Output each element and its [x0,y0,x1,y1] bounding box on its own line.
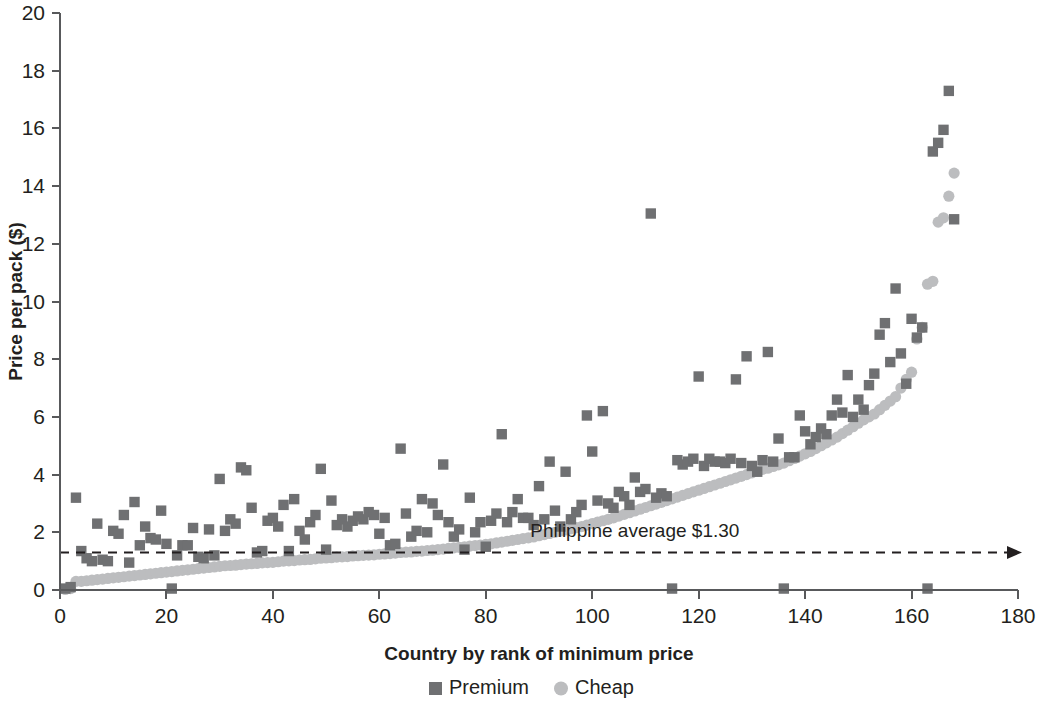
data-point-premium [470,527,480,537]
data-point-premium [289,494,299,504]
x-tick-label: 0 [54,604,66,627]
data-point-premium [795,410,805,420]
data-point-premium [438,459,448,469]
data-point-premium [374,529,384,539]
philippine-average-label: Philippine average $1.30 [530,520,739,541]
data-point-premium [417,494,427,504]
data-point-premium [901,379,911,389]
data-point-premium [550,505,560,515]
data-point-premium [491,508,501,518]
data-point-premium [241,465,251,475]
data-point-premium [513,494,523,504]
data-point-premium [837,407,847,417]
data-point-premium [662,491,672,501]
y-tick-label: 4 [33,463,45,486]
data-point-premium [534,481,544,491]
data-point-premium [630,472,640,482]
series-premium [60,86,959,594]
data-point-premium [624,500,634,510]
data-point-premium [938,125,948,135]
data-point-premium [827,410,837,420]
data-point-premium [390,539,400,549]
data-point-premium [129,497,139,507]
data-point-premium [864,380,874,390]
legend-label-premium: Premium [449,676,529,698]
data-point-premium [113,529,123,539]
data-point-premium [757,455,767,465]
data-point-premium [731,374,741,384]
data-point-premium [949,214,959,224]
data-point-premium [576,500,586,510]
data-point-premium [369,510,379,520]
data-point-premium [560,467,570,477]
data-point-cheap [906,367,917,378]
data-point-premium [693,371,703,381]
data-point-premium [326,495,336,505]
data-point-premium [544,456,554,466]
data-point-premium [278,500,288,510]
data-point-premium [763,347,773,357]
x-tick-label: 40 [261,604,284,627]
data-point-premium [379,513,389,523]
data-point-premium [896,348,906,358]
data-point-premium [395,443,405,453]
data-point-premium [880,318,890,328]
data-point-premium [773,433,783,443]
x-tick-label: 160 [894,604,929,627]
data-point-premium [933,138,943,148]
data-point-premium [736,458,746,468]
data-point-premium [853,394,863,404]
legend-marker-premium [429,682,442,695]
data-point-premium [422,527,432,537]
data-point-premium [443,517,453,527]
data-point-premium [310,510,320,520]
data-point-premium [71,492,81,502]
data-point-premium [725,454,735,464]
data-point-premium [151,534,161,544]
y-tick-label: 2 [33,520,45,543]
x-tick-label: 80 [474,604,497,627]
data-point-premium [183,540,193,550]
data-point-premium [199,553,209,563]
x-tick-label: 180 [1000,604,1035,627]
data-point-premium [688,454,698,464]
data-point-premium [316,464,326,474]
data-point-cheap [949,168,960,179]
data-point-premium [92,518,102,528]
chart-figure: Philippine average $1.300246810121416182… [0,0,1049,707]
axis-lines [60,13,1018,590]
y-tick-label: 18 [22,59,45,82]
data-point-premium [497,429,507,439]
data-point-premium [789,452,799,462]
data-point-premium [821,429,831,439]
data-point-premium [401,508,411,518]
plot-area: Philippine average $1.300246810121416182… [5,1,1036,698]
data-point-premium [640,484,650,494]
data-point-premium [842,370,852,380]
x-tick-label: 120 [681,604,716,627]
y-axis-title: Price per pack ($) [5,222,26,380]
data-point-premium [885,357,895,367]
data-point-premium [592,495,602,505]
data-point-premium [475,517,485,527]
data-point-premium [411,526,421,536]
data-point-premium [906,314,916,324]
data-point-cheap [927,276,938,287]
data-point-premium [481,542,491,552]
chart-legend: PremiumCheap [429,676,634,698]
data-point-premium [768,456,778,466]
data-point-premium [220,526,230,536]
data-point-premium [832,394,842,404]
data-point-premium [912,332,922,342]
y-tick-label: 6 [33,405,45,428]
x-tick-label: 140 [788,604,823,627]
data-point-premium [598,406,608,416]
data-point-premium [124,557,134,567]
data-point-premium [167,583,177,593]
data-point-premium [427,498,437,508]
data-point-cheap [938,212,949,223]
data-point-premium [800,426,810,436]
data-point-premium [214,474,224,484]
data-point-premium [135,540,145,550]
data-point-premium [858,404,868,414]
